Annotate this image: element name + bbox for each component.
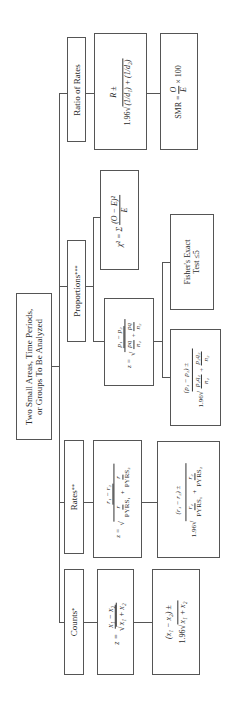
ciprop-prefix: 1.96 bbox=[196, 395, 204, 407]
ratio-of-rates-label: Ratio of Rates bbox=[71, 64, 81, 116]
ratio-of-rates-box: Ratio of Rates bbox=[67, 37, 86, 142]
ratio-to-ci-connector bbox=[86, 93, 94, 94]
ciprop-b-num: p₂q₂ bbox=[192, 351, 201, 365]
smr-lhs: SMR = bbox=[174, 95, 183, 118]
ratio-ci-box: R ± 1.96 √(1/d₁) + (1/d₂) bbox=[94, 33, 147, 150]
ci-to-smr-connector bbox=[147, 93, 160, 94]
ci-counts-box: (x₁ − x₂) ± 1.96 √x₁ + x₂ bbox=[152, 569, 200, 675]
proportions-connector bbox=[59, 286, 67, 287]
root-line1: Two Small Areas, Time Periods, bbox=[24, 308, 34, 424]
zprop-branch-v bbox=[162, 262, 163, 377]
ciprop-a-num: p₁q₁ bbox=[192, 374, 201, 388]
zprop-den-a-den: n₁ bbox=[135, 340, 143, 348]
smr-num: O bbox=[169, 85, 179, 93]
to-fisher-connector bbox=[162, 262, 170, 263]
rates-to-z-connector bbox=[84, 502, 93, 503]
cirates-b-num: r₂ bbox=[186, 473, 195, 480]
cirates-b-den: PYRS₂ bbox=[195, 465, 203, 487]
rates-label: Rates bbox=[69, 490, 79, 510]
ratio-ci-prefix: 1.96 bbox=[123, 111, 132, 125]
zprop-lhs: z = bbox=[125, 359, 133, 368]
ratio-connector bbox=[59, 93, 67, 94]
zcounts-radicand: x₁ + x₂ bbox=[116, 602, 126, 626]
counts-to-z-connector bbox=[84, 622, 97, 623]
to-zprop-connector bbox=[93, 341, 104, 342]
fisher-line1: Fisher's Exact bbox=[183, 240, 192, 285]
sqrt-icon: √ bbox=[122, 106, 132, 111]
zprop-branch-h bbox=[154, 341, 163, 342]
z-proportions-box: z = p₁ − p₂ √ pqn₁ + pqn₂ bbox=[104, 298, 154, 386]
trunk-line bbox=[59, 93, 60, 623]
chi-den: E bbox=[120, 207, 129, 214]
plus-sign: + bbox=[130, 333, 138, 338]
zprop-den-b-den: n₂ bbox=[135, 322, 143, 330]
smr-den: E bbox=[180, 86, 189, 93]
cirates-a-den: PYRS₁ bbox=[195, 495, 203, 517]
ci-proportions-box: (p₁ − p₂) ± 1.96 √ p₁q₁n₁ + p₂q₂n₂ bbox=[170, 329, 221, 426]
zrates-lhs: z = bbox=[113, 528, 121, 537]
cirates-prefix: 1.96 bbox=[190, 524, 198, 536]
zprop-num: p₁ − p₂ bbox=[115, 326, 124, 348]
chi-lhs: χ² = Σ bbox=[115, 227, 124, 247]
ratio-ci-radicand: (1/d₁) + (1/d₂) bbox=[122, 58, 132, 106]
proportions-branch-v bbox=[93, 217, 94, 342]
fisher-line2: Test ≤5 bbox=[192, 250, 201, 274]
sqrt-icon: √ bbox=[116, 626, 126, 631]
zprop-den-a-num: pq bbox=[125, 340, 134, 349]
cicounts-radicand: x₁ + x₂ bbox=[178, 601, 188, 625]
to-ciprop-connector bbox=[162, 377, 170, 378]
sqrt-icon: √ bbox=[129, 352, 138, 356]
cirates-line1: (r₁ − r₂) ± bbox=[174, 485, 182, 514]
chi-num: (O − E)² bbox=[110, 195, 120, 225]
rates-box: Rates** bbox=[64, 440, 84, 554]
zrates-b-num: r bbox=[114, 475, 123, 480]
proportions-branch-h bbox=[86, 286, 94, 287]
ciprop-b-den: n₂ bbox=[202, 354, 210, 362]
root-box: Two Small Areas, Time Periods, or Groups… bbox=[16, 293, 52, 440]
root-connector bbox=[52, 366, 60, 367]
plus-sign: + bbox=[190, 489, 198, 493]
zrates-a-num: r bbox=[114, 505, 123, 510]
sqrt-icon: √ bbox=[118, 521, 127, 525]
ciprop-a-den: n₁ bbox=[202, 377, 210, 385]
sqrt-icon: √ bbox=[196, 391, 205, 395]
ciprop-line1: (p₁ − p₂) ± bbox=[181, 362, 189, 392]
sqrt-icon: √ bbox=[178, 625, 188, 630]
plus-sign: + bbox=[197, 367, 205, 372]
proportions-box: Proportions*** bbox=[67, 240, 86, 342]
zrates-b-den: PYRS₂ bbox=[123, 466, 131, 488]
cicounts-prefix: 1.96 bbox=[178, 629, 187, 643]
z-counts-box: z = x₁ − x₂ √x₁ + x₂ bbox=[97, 569, 134, 675]
sqrt-icon: √ bbox=[190, 520, 199, 524]
counts-label: Counts bbox=[69, 611, 79, 637]
zrates-to-ci-connector bbox=[142, 502, 157, 503]
smr-tail: × 100 bbox=[174, 65, 183, 84]
zcounts-lhs: z = bbox=[111, 634, 120, 645]
to-chi-connector bbox=[93, 217, 100, 218]
counts-box: Counts* bbox=[64, 569, 84, 675]
root-line2: or Groups To Be Analyzed bbox=[34, 318, 44, 414]
zrates-a-den: PYRS₁ bbox=[123, 496, 131, 518]
z-rates-box: z = r₁ − r₂ √ rPYRS₁ + rPYRS₂ bbox=[93, 440, 142, 558]
zcounts-to-ci-connector bbox=[134, 622, 152, 623]
proportions-label: Proportions bbox=[71, 275, 81, 317]
zprop-den-b-num: pq bbox=[125, 322, 134, 331]
smr-box: SMR = OE × 100 bbox=[160, 33, 198, 150]
zrates-num: r₁ − r₂ bbox=[104, 484, 113, 505]
zcounts-num: x₁ − x₂ bbox=[105, 605, 115, 629]
ratio-ci-line1: R ± bbox=[109, 86, 118, 97]
cicounts-line1: (x₁ − x₂) ± bbox=[164, 605, 173, 639]
chi-square-box: χ² = Σ (O − E)²E bbox=[100, 170, 139, 270]
cirates-a-num: r₁ bbox=[186, 503, 195, 510]
plus-sign: + bbox=[118, 490, 126, 494]
fisher-box: Fisher's Exact Test ≤5 bbox=[170, 214, 214, 310]
ci-rates-box: (r₁ − r₂) ± 1.96 √ r₁PYRS₁ + r₂PYRS₂ bbox=[157, 441, 220, 558]
